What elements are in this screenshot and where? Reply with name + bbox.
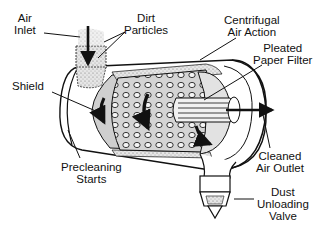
label-pleated-paper-filter: Pleated Paper Filter [253, 42, 312, 66]
label-line: Air Outlet [256, 162, 304, 174]
label-dust-unloading-valve: Dust Unloading Valve [257, 186, 309, 222]
label-line: Unloading [257, 198, 309, 210]
dust-unloading-valve [200, 154, 236, 218]
label-precleaning-starts: Precleaning Starts [61, 161, 122, 185]
label-line: Shield [12, 80, 44, 92]
label-line: Valve [257, 210, 309, 222]
label-line: Air Action [224, 26, 280, 38]
label-dirt-particles: Dirt Particles [124, 12, 168, 36]
label-line: Air [14, 12, 36, 24]
label-line: Inlet [14, 24, 36, 36]
label-line: Particles [124, 24, 168, 36]
label-air-inlet: Air Inlet [14, 12, 36, 36]
label-centrifugal-air-action: Centrifugal Air Action [224, 14, 280, 38]
label-line: Pleated [253, 42, 312, 54]
label-line: Dirt [124, 12, 168, 24]
label-shield: Shield [12, 80, 44, 92]
label-cleaned-air-outlet: Cleaned Air Outlet [256, 150, 304, 174]
air-inlet-pipe [76, 26, 106, 88]
label-line: Centrifugal [224, 14, 280, 26]
label-line: Cleaned [256, 150, 304, 162]
label-line: Starts [61, 173, 122, 185]
label-line: Paper Filter [253, 54, 312, 66]
label-line: Precleaning [61, 161, 122, 173]
label-line: Dust [257, 186, 309, 198]
